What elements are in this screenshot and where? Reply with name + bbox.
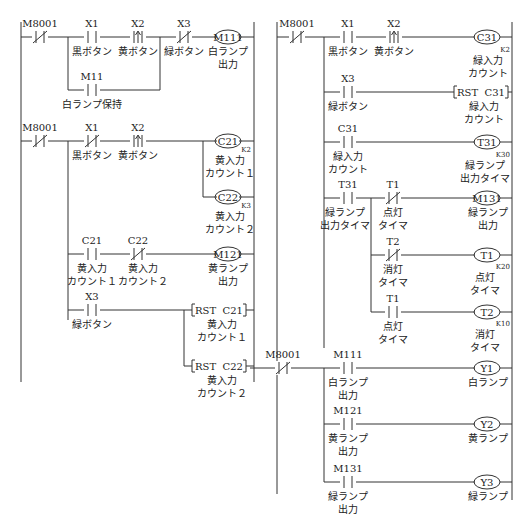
svg-text:黒ボタン: 黒ボタン — [328, 46, 368, 57]
svg-text:カウント: カウント — [328, 164, 368, 175]
contact-c31: C31 緑入力 カウント — [328, 123, 368, 175]
svg-text:T31: T31 — [338, 179, 357, 190]
svg-text:X3: X3 — [177, 18, 190, 29]
svg-text:出力: 出力 — [338, 503, 358, 515]
contact-m111: M111 白ランプ 出力 — [328, 349, 368, 401]
svg-text:X3: X3 — [85, 291, 98, 302]
contact-m8001: M8001 — [22, 18, 58, 44]
svg-text:黄入力: 黄入力 — [207, 318, 237, 330]
svg-text:カウント２: カウント２ — [118, 276, 168, 287]
svg-text:RST C31: RST C31 — [457, 87, 505, 98]
svg-text:白ランプ: 白ランプ — [208, 45, 248, 57]
svg-text:緑ボタン: 緑ボタン — [328, 100, 368, 112]
svg-text:緑入力: 緑入力 — [473, 54, 503, 66]
svg-text:タイマ: タイマ — [470, 342, 500, 353]
svg-text:消灯: 消灯 — [383, 263, 403, 275]
svg-text:M8001: M8001 — [22, 122, 58, 133]
svg-text:タイマ: タイマ — [378, 334, 408, 345]
svg-text:K20: K20 — [496, 263, 510, 271]
svg-text:カウント１: カウント１ — [197, 332, 247, 343]
svg-text:M8001: M8001 — [279, 18, 315, 29]
svg-text:T31: T31 — [477, 137, 496, 148]
svg-text:白ランプ保持: 白ランプ保持 — [62, 98, 122, 110]
svg-text:黄ボタン: 黄ボタン — [118, 149, 158, 161]
svg-text:タイマ: タイマ — [470, 285, 500, 296]
coil-m131: M131 緑ランプ 出力 — [468, 191, 508, 231]
svg-text:出力: 出力 — [218, 275, 238, 287]
svg-text:白ランプ: 白ランプ — [468, 376, 508, 388]
svg-text:T2: T2 — [386, 236, 399, 247]
svg-text:X1: X1 — [85, 18, 98, 29]
svg-text:M131: M131 — [472, 193, 501, 204]
svg-text:T2: T2 — [480, 307, 493, 318]
svg-text:K10: K10 — [496, 320, 510, 328]
right-program: M8001 X1 黒ボタン X2 黄ボタン C31 K2 緑入力 カウント — [250, 18, 512, 515]
svg-text:X2: X2 — [387, 18, 400, 29]
svg-text:M8001: M8001 — [22, 18, 58, 29]
rung-t1: T2 消灯 タイマ T1 K20 点灯 タイマ — [371, 236, 512, 296]
svg-text:黒ボタン: 黒ボタン — [72, 46, 112, 57]
svg-text:緑ランプ: 緑ランプ — [468, 206, 508, 218]
svg-text:黄ボタン: 黄ボタン — [374, 45, 414, 57]
svg-text:黄入力: 黄入力 — [128, 262, 158, 274]
svg-text:出力: 出力 — [218, 58, 238, 70]
svg-text:黄ランプ: 黄ランプ — [328, 432, 368, 444]
svg-text:C31: C31 — [338, 123, 358, 134]
svg-text:消灯: 消灯 — [475, 328, 495, 340]
coil-m111: M111 白ランプ 出力 — [208, 30, 248, 70]
svg-text:Y1: Y1 — [480, 363, 494, 374]
rst-c22-instruction: RST C22 黄入力 カウント２ — [192, 360, 247, 399]
svg-text:K30: K30 — [496, 151, 510, 159]
svg-text:T1: T1 — [386, 293, 399, 304]
contact-t1-nc: T1 点灯 タイマ — [378, 179, 408, 231]
svg-text:点灯: 点灯 — [383, 207, 403, 218]
svg-text:Y2: Y2 — [480, 419, 494, 430]
svg-text:緑ランプ: 緑ランプ — [465, 159, 505, 171]
svg-text:黄ランプ: 黄ランプ — [468, 432, 508, 444]
svg-text:K2: K2 — [241, 146, 251, 154]
svg-text:M111: M111 — [333, 349, 362, 360]
svg-text:M121: M121 — [333, 405, 362, 416]
svg-text:M11: M11 — [81, 71, 104, 82]
svg-text:T1: T1 — [480, 250, 493, 261]
coil-y2: Y2 黄ランプ — [468, 417, 508, 444]
coil-m121: M121 黄ランプ 出力 — [208, 247, 248, 287]
svg-text:C22: C22 — [218, 192, 238, 203]
svg-text:緑ランプ: 緑ランプ — [328, 490, 368, 502]
svg-text:M131: M131 — [333, 463, 362, 474]
svg-text:X3: X3 — [341, 73, 354, 84]
rung-1: M8001 X1 黒ボタン X2 黄ボタン X3 緑ボタン M11 白ランプ保持 — [21, 18, 254, 110]
svg-text:X1: X1 — [85, 122, 98, 133]
contact-m8001: M8001 — [265, 349, 301, 375]
svg-text:出力: 出力 — [338, 445, 358, 457]
svg-text:緑ボタン: 緑ボタン — [72, 318, 112, 330]
rung-y1: M8001 M111 白ランプ 出力 Y1 白ランプ — [250, 349, 512, 482]
svg-text:出力タイマ: 出力タイマ — [320, 219, 370, 231]
svg-text:M111: M111 — [213, 32, 242, 43]
contact-t2-nc: T2 消灯 タイマ — [378, 236, 408, 288]
svg-text:緑ランプ: 緑ランプ — [325, 206, 365, 218]
svg-text:C21: C21 — [218, 136, 238, 147]
contact-t31: T31 緑ランプ 出力タイマ — [320, 179, 370, 231]
rung-t2: T1 点灯 タイマ T2 K10 消灯 タイマ — [371, 293, 512, 353]
svg-text:黄入力: 黄入力 — [207, 374, 237, 386]
svg-text:黒ボタン: 黒ボタン — [72, 150, 112, 161]
svg-text:T1: T1 — [386, 179, 399, 190]
svg-text:K3: K3 — [241, 202, 251, 210]
coil-y1: Y1 白ランプ — [468, 361, 508, 388]
rung-2: M8001 X1 黒ボタン X2 黄ボタン C21 K2 黄入力 カウント１ — [21, 122, 255, 320]
svg-text:C31: C31 — [477, 32, 497, 43]
svg-text:C22: C22 — [128, 235, 148, 246]
svg-text:出力: 出力 — [478, 219, 498, 231]
contact-c21: C21 黄入力 カウント１ — [67, 235, 117, 287]
svg-text:黄入力: 黄入力 — [215, 154, 245, 166]
svg-text:カウント１: カウント１ — [67, 276, 117, 287]
rung-y3: M131 緑ランプ 出力 Y3 緑ランプ — [324, 463, 512, 515]
rst-c31-instruction: RST C31 緑入力 カウント — [454, 86, 508, 125]
rung-3: C21 黄入力 カウント１ C22 黄入力 カウント２ M121 黄ランプ 出力 — [67, 235, 254, 287]
svg-text:RST C21: RST C21 — [195, 305, 243, 316]
svg-text:黄ボタン: 黄ボタン — [118, 45, 158, 57]
svg-text:M8001: M8001 — [265, 349, 301, 360]
rung-rst-c31: X3 緑ボタン RST C31 緑入力 カウント — [324, 73, 512, 125]
svg-text:タイマ: タイマ — [378, 220, 408, 231]
